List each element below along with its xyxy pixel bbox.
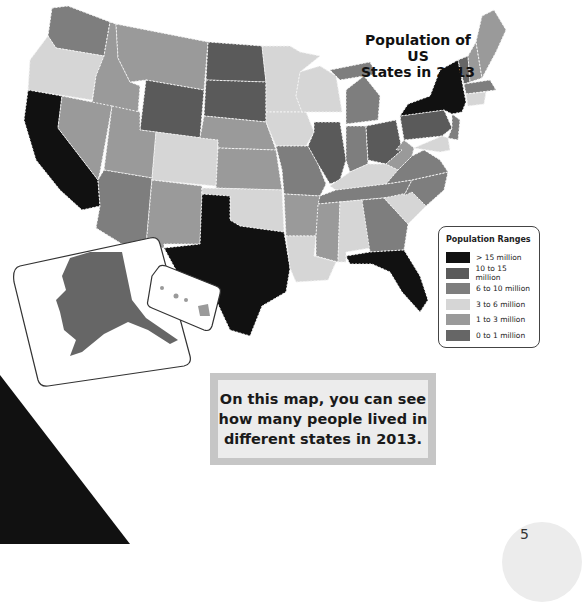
legend-item: 6 to 10 million	[446, 281, 533, 297]
state-north-dakota	[206, 42, 266, 82]
legend-label: > 15 million	[476, 253, 522, 262]
legend-item: 1 to 3 million	[446, 312, 533, 328]
map-title: Population of US States in 2013	[352, 32, 484, 80]
state-indiana	[346, 126, 368, 172]
page-number-badge: 5	[502, 522, 582, 602]
state-arkansas	[284, 194, 320, 236]
legend-item: > 15 million	[446, 250, 533, 266]
legend: Population Ranges > 15 million 10 to 15 …	[438, 226, 540, 348]
legend-label: 10 to 15 million	[475, 264, 533, 282]
legend-label: 3 to 6 million	[476, 300, 525, 309]
decorative-triangle	[0, 375, 130, 544]
state-wyoming	[140, 80, 204, 138]
page-number: 5	[520, 526, 529, 542]
legend-swatch	[446, 299, 470, 310]
state-iowa	[266, 112, 314, 146]
legend-label: 6 to 10 million	[476, 284, 530, 293]
state-florida	[346, 250, 428, 312]
state-south-dakota	[204, 80, 266, 122]
legend-item: 10 to 15 million	[446, 266, 533, 282]
legend-swatch	[446, 268, 469, 279]
legend-swatch	[446, 330, 470, 341]
caption-box: On this map, you can see how many people…	[210, 373, 436, 465]
state-montana	[116, 24, 208, 90]
title-line-2: States in 2013	[352, 64, 484, 80]
legend-swatch	[446, 283, 470, 294]
state-arizona	[96, 170, 152, 246]
legend-swatch	[446, 252, 470, 263]
state-connecticut	[466, 92, 486, 106]
state-mississippi	[316, 202, 340, 262]
legend-title: Population Ranges	[446, 235, 533, 244]
legend-label: 0 to 1 million	[476, 331, 525, 340]
legend-item: 3 to 6 million	[446, 297, 533, 313]
state-colorado	[152, 132, 218, 186]
title-line-1: Population of US	[352, 32, 484, 64]
state-kansas	[216, 148, 282, 190]
legend-swatch	[446, 314, 470, 325]
caption-text: On this map, you can see how many people…	[218, 380, 428, 458]
legend-label: 1 to 3 million	[476, 315, 525, 324]
legend-item: 0 to 1 million	[446, 328, 533, 344]
